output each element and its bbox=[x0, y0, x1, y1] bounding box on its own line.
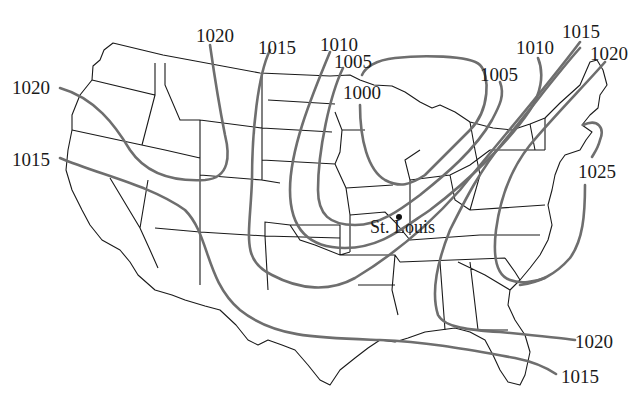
city-label-st-louis: St. Louis bbox=[370, 218, 435, 236]
isobar-label-n-1020: 1020 bbox=[196, 26, 234, 45]
isobar-1020-west bbox=[60, 45, 228, 180]
isobar-label-ne-1010: 1010 bbox=[516, 38, 554, 57]
isobar-label-ne-1020: 1020 bbox=[590, 44, 628, 63]
isobar-label-ne-1005: 1005 bbox=[480, 65, 518, 84]
isobar-label-n-1005: 1005 bbox=[334, 52, 372, 71]
isobar-label-n-1015: 1015 bbox=[258, 38, 296, 57]
isobar-1025 bbox=[520, 123, 602, 285]
isobar-label-low-1000: 1000 bbox=[343, 83, 381, 102]
isobar-label-se-1015: 1015 bbox=[561, 367, 599, 386]
isobar-label-se-1020: 1020 bbox=[575, 332, 613, 351]
isobar-1015-west bbox=[60, 158, 556, 374]
isobar-label-ne-1015: 1015 bbox=[562, 22, 600, 41]
isobar-label-e-1025: 1025 bbox=[578, 162, 616, 181]
isobar-label-w-1020: 1020 bbox=[12, 78, 50, 97]
isobar-label-w-1015: 1015 bbox=[12, 150, 50, 169]
us-weather-map bbox=[0, 0, 642, 417]
isobar-1015-north bbox=[249, 42, 580, 287]
